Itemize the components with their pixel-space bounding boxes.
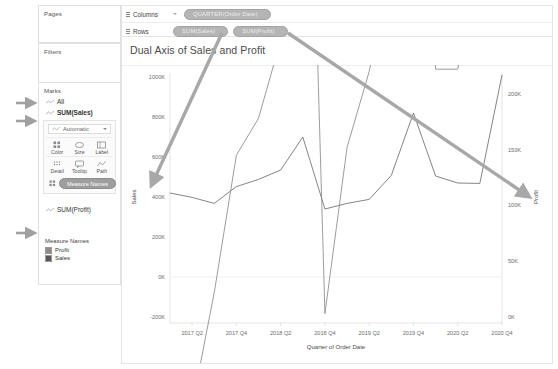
path-button[interactable]: Path xyxy=(91,159,113,174)
filters-shelf[interactable]: Filters xyxy=(38,43,121,83)
size-button[interactable]: Size xyxy=(68,140,90,155)
left-shelves-panel: Pages Filters Marks All SUM(Sales) xyxy=(38,0,121,369)
legend-item-profit[interactable]: Profit xyxy=(38,246,121,254)
chevron-down-icon[interactable] xyxy=(173,13,177,15)
marks-card-body: Automatic Color xyxy=(43,120,116,194)
tooltip-icon xyxy=(75,159,84,168)
legend-swatch-profit xyxy=(45,247,52,254)
right-axis-tick-label: 0K xyxy=(508,314,515,320)
size-button-label: Size xyxy=(74,149,84,155)
detail-button[interactable]: Detail xyxy=(46,159,68,174)
label-icon xyxy=(97,140,106,149)
columns-shelf[interactable]: Columns QUARTER(Order Date) xyxy=(122,6,552,22)
mark-buttons-row-2: Detail Tooltip xyxy=(46,156,113,175)
series-line-sales[interactable] xyxy=(170,75,502,209)
pill-sum-sales[interactable]: SUM(Sales) xyxy=(173,26,228,37)
right-axis-tick-label: 100K xyxy=(508,202,521,208)
left-axis-tick-label: 1000K xyxy=(149,74,165,80)
right-axis-tick-label: 50K xyxy=(508,258,518,264)
right-axis-tick-label: 150K xyxy=(508,147,521,153)
x-axis-title: Quarter of Order Date xyxy=(307,344,366,350)
line-mark-icon xyxy=(46,99,54,105)
left-axis-tick-label: 400K xyxy=(152,194,165,200)
x-axis-tick-label: 2019 Q4 xyxy=(403,330,424,336)
marks-card-sum-sales[interactable]: SUM(Sales) xyxy=(39,107,120,118)
measure-names-pill[interactable]: Measure Names xyxy=(59,178,116,189)
marks-card-sum-sales-label: SUM(Sales) xyxy=(57,109,93,116)
line-mark-icon xyxy=(46,207,54,213)
size-icon xyxy=(75,140,84,149)
series-line-profit[interactable] xyxy=(170,65,502,363)
detail-button-label: Detail xyxy=(51,168,64,174)
filters-label: Filters xyxy=(39,44,120,55)
chart-title: Dual Axis of Sales and Profit xyxy=(130,44,265,56)
color-icon xyxy=(53,140,61,149)
left-axis-tick-label: 0K xyxy=(158,274,165,280)
left-axis-tick-label: -200K xyxy=(150,314,165,320)
right-axis-title: Profit xyxy=(533,190,539,204)
path-icon xyxy=(97,159,106,168)
x-axis-tick-label: 2018 Q4 xyxy=(314,330,335,336)
marks-measure-names-row: Measure Names xyxy=(49,178,111,189)
columns-shelf-label: Columns xyxy=(133,11,158,18)
columns-shelf-label-wrap: Columns xyxy=(126,11,168,18)
pages-label: Pages xyxy=(39,6,120,17)
pill-sum-profit[interactable]: SUM(Profit) xyxy=(233,26,287,37)
x-axis-tick-label: 2018 Q2 xyxy=(270,330,291,336)
color-button[interactable]: Color xyxy=(46,140,68,155)
measure-names-legend: Measure Names Profit Sales xyxy=(38,238,121,262)
marks-card-sum-profit-label: SUM(Profit) xyxy=(57,206,91,213)
path-button-label: Path xyxy=(96,168,107,174)
legend-label-profit: Profit xyxy=(55,247,69,253)
marks-card-all[interactable]: All xyxy=(39,96,120,107)
detail-icon xyxy=(53,159,61,168)
legend-title: Measure Names xyxy=(38,238,121,246)
left-axis-tick-label: 600K xyxy=(152,154,165,160)
line-mark-icon xyxy=(46,110,54,116)
grip-icon xyxy=(126,29,130,34)
left-axis-title: Sales xyxy=(131,189,137,204)
label-button-label: Label xyxy=(95,149,108,155)
right-axis-tick-label: 200K xyxy=(508,91,521,97)
x-axis-tick-label: 2019 Q2 xyxy=(358,330,379,336)
tooltip-button-label: Tooltip xyxy=(72,168,87,174)
viz-panel: Dual Axis of Sales and Profit -200K0K200… xyxy=(121,37,553,364)
chart-canvas[interactable]: -200K0K200K400K600K800K1000K0K50K100K150… xyxy=(122,65,552,363)
tooltip-button[interactable]: Tooltip xyxy=(68,159,90,174)
x-axis-tick-label: 2020 Q2 xyxy=(447,330,468,336)
marks-label: Marks xyxy=(39,83,120,96)
legend-item-sales[interactable]: Sales xyxy=(38,254,121,262)
grip-icon xyxy=(126,12,130,17)
shelf-bar: Columns QUARTER(Order Date) Rows SUM(Sal… xyxy=(121,5,553,37)
color-button-label: Color xyxy=(51,149,63,155)
pill-quarter-order-date[interactable]: QUARTER(Order Date) xyxy=(184,9,271,20)
mark-type-dropdown[interactable]: Automatic xyxy=(48,124,111,134)
rows-shelf-label-wrap: Rows xyxy=(126,28,168,35)
mark-buttons-row-1: Color Size xyxy=(46,137,113,156)
x-axis-tick-label: 2017 Q2 xyxy=(181,330,202,336)
x-axis-tick-label: 2017 Q4 xyxy=(226,330,247,336)
marks-card-all-label: All xyxy=(57,98,64,105)
x-axis-tick-label: 2020 Q4 xyxy=(491,330,512,336)
left-axis-tick-label: 200K xyxy=(152,234,165,240)
marks-card-sum-profit[interactable]: SUM(Profit) xyxy=(39,204,120,215)
legend-label-sales: Sales xyxy=(55,255,70,261)
rows-shelf-label: Rows xyxy=(133,28,149,35)
label-button[interactable]: Label xyxy=(91,140,113,155)
legend-swatch-sales xyxy=(45,255,52,262)
color-icon xyxy=(49,179,56,188)
pages-shelf[interactable]: Pages xyxy=(38,5,121,43)
line-mark-icon xyxy=(52,126,60,132)
mark-type-value: Automatic xyxy=(63,126,89,132)
chevron-down-icon xyxy=(103,128,107,130)
left-axis-tick-label: 800K xyxy=(152,114,165,120)
